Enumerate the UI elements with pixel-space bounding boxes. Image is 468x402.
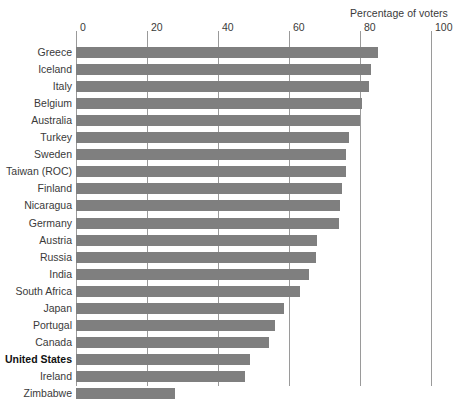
chart-row: Belgium <box>0 95 468 112</box>
category-label: Greece <box>0 44 72 61</box>
chart-row: Austria <box>0 232 468 249</box>
x-tick-label-20: 20 <box>151 21 163 33</box>
bar <box>76 166 346 177</box>
chart-row: Nicaragua <box>0 197 468 214</box>
bar <box>76 115 360 126</box>
chart-row: Turkey <box>0 129 468 146</box>
x-tick-label-80: 80 <box>364 21 376 33</box>
bar <box>76 235 317 246</box>
chart-row: Canada <box>0 334 468 351</box>
bar <box>76 183 342 194</box>
category-label: Canada <box>0 334 72 351</box>
bar <box>76 354 250 365</box>
category-label: Zimbabwe <box>0 385 72 402</box>
x-tick-label-0: 0 <box>80 21 86 33</box>
chart-row: Russia <box>0 249 468 266</box>
chart-row: United States <box>0 351 468 368</box>
chart-row: Germany <box>0 215 468 232</box>
bar <box>76 132 349 143</box>
category-label: Australia <box>0 112 72 129</box>
category-label: Italy <box>0 78 72 95</box>
category-label: Austria <box>0 232 72 249</box>
x-tick-label-60: 60 <box>293 21 305 33</box>
chart-row: Taiwan (ROC) <box>0 163 468 180</box>
bar <box>76 218 339 229</box>
category-label: Belgium <box>0 95 72 112</box>
category-label: Ireland <box>0 368 72 385</box>
x-tick-label-100: 100 <box>435 21 453 33</box>
bar <box>76 47 378 58</box>
bar <box>76 98 362 109</box>
chart-row: Iceland <box>0 61 468 78</box>
bar <box>76 149 346 160</box>
chart-row: Zimbabwe <box>0 385 468 402</box>
bar <box>76 337 269 348</box>
category-label: Iceland <box>0 61 72 78</box>
bar <box>76 303 284 314</box>
bar <box>76 286 300 297</box>
chart-row: Portugal <box>0 317 468 334</box>
bar <box>76 371 245 382</box>
category-label: India <box>0 266 72 283</box>
chart-row: India <box>0 266 468 283</box>
category-label: Japan <box>0 300 72 317</box>
category-label: Turkey <box>0 129 72 146</box>
bar <box>76 81 369 92</box>
category-label: South Africa <box>0 283 72 300</box>
bar <box>76 200 340 211</box>
chart-row: Australia <box>0 112 468 129</box>
category-label: Sweden <box>0 146 72 163</box>
chart-row: Japan <box>0 300 468 317</box>
category-label: United States <box>0 351 72 368</box>
x-tick-label-40: 40 <box>222 21 234 33</box>
chart-row: Italy <box>0 78 468 95</box>
bar <box>76 269 309 280</box>
bar <box>76 252 316 263</box>
category-label: Portugal <box>0 317 72 334</box>
category-label: Nicaragua <box>0 197 72 214</box>
bar <box>76 64 371 75</box>
chart-row: Sweden <box>0 146 468 163</box>
category-label: Germany <box>0 215 72 232</box>
category-label: Russia <box>0 249 72 266</box>
chart-row: Greece <box>0 44 468 61</box>
chart-row: South Africa <box>0 283 468 300</box>
bar <box>76 320 275 331</box>
category-label: Finland <box>0 180 72 197</box>
bar <box>76 388 175 399</box>
category-label: Taiwan (ROC) <box>0 163 72 180</box>
chart-row: Finland <box>0 180 468 197</box>
chart-row: Ireland <box>0 368 468 385</box>
